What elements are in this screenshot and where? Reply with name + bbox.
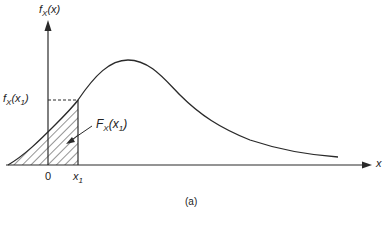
x-axis-label: x — [376, 157, 382, 169]
y-axis-label: fX(x) — [39, 3, 60, 18]
fx1-value-label: fX(x1) — [3, 92, 29, 107]
x1-label: x1 — [73, 170, 83, 185]
origin-label: 0 — [45, 170, 51, 182]
cdf-area-label: FX(x1) — [96, 117, 127, 133]
figure-caption: (a) — [185, 196, 197, 207]
pdf-diagram — [0, 0, 385, 227]
shaded-cdf-area — [8, 100, 78, 165]
